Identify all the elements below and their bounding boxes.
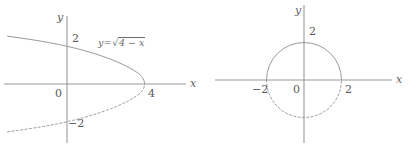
left-ytick-2: 2 [72,33,79,44]
right-origin-label: 0 [293,84,300,95]
right-y-axis-label: y [295,5,301,16]
curve-equation-label: y=√4 − x [98,37,145,49]
left-y-axis-label: y [57,12,63,23]
left-xtick-4: 4 [148,88,155,99]
left-plot-canvas [0,0,209,150]
right-xtick-2: 2 [345,84,352,95]
radical-sign: √4 − x [111,37,144,49]
sideways-parabola-plot: y x 2 0 4 −2 y=√4 − x [0,0,209,150]
right-x-axis-label: x [396,74,402,85]
math-figure: y x 2 0 4 −2 y=√4 − x y x 2 −2 0 2 [0,0,417,150]
equation-equals: = [103,37,111,48]
circle-plot: y x 2 −2 0 2 [209,0,417,150]
left-origin-label: 0 [55,88,62,99]
radicand: 4 − x [118,37,144,49]
right-ytick-2: 2 [309,26,316,37]
right-plot-canvas [209,0,417,150]
right-xtick-minus-2: −2 [252,84,268,95]
left-ytick-minus-2: −2 [68,118,84,129]
left-x-axis-label: x [190,78,196,89]
